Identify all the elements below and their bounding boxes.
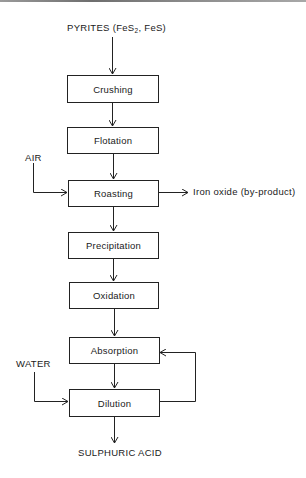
- side-input-air: AIR: [25, 152, 42, 163]
- side-input-water: WATER: [16, 358, 51, 369]
- step-crushing: Crushing: [67, 75, 159, 103]
- step-precipitation: Precipitation: [68, 232, 159, 259]
- arrow-recycle-dilution-to-absorption: [159, 353, 196, 402]
- step-roasting: Roasting: [68, 180, 159, 207]
- step-label: Roasting: [94, 188, 133, 199]
- step-absorption: Absorption: [69, 337, 160, 364]
- arrow-water-to-dilution: [35, 372, 69, 402]
- input-suffix: , FeS): [138, 22, 166, 33]
- step-label: Absorption: [91, 345, 138, 356]
- step-flotation: Flotation: [67, 127, 159, 154]
- output-sulphuric-acid: SULPHURIC ACID: [78, 447, 162, 458]
- step-label: Precipitation: [86, 240, 141, 251]
- step-oxidation: Oxidation: [69, 282, 159, 309]
- step-dilution: Dilution: [69, 389, 160, 417]
- step-label: Dilution: [98, 398, 131, 409]
- input-pyrites-label: PYRITES (FeS2, FeS): [67, 22, 166, 34]
- input-prefix: PYRITES (FeS: [67, 22, 134, 33]
- step-label: Flotation: [94, 135, 132, 146]
- step-label: Oxidation: [93, 290, 135, 301]
- arrow-air-to-roasting: [34, 163, 68, 193]
- step-label: Crushing: [93, 84, 133, 95]
- side-output-iron-oxide: Iron oxide (by-product): [193, 186, 295, 197]
